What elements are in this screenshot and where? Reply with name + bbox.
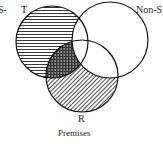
diagram-caption: Premises [58,128,91,138]
set-label-t: T [21,4,27,15]
set-label-non-s: Non-S [136,4,162,15]
edge-fragment-label: S- [0,4,7,15]
set-label-r: R [78,113,85,124]
